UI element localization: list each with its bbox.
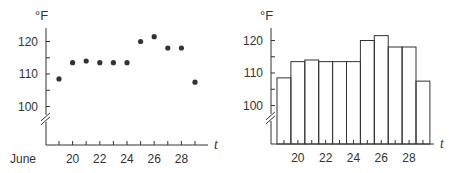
y-tick-label: 120 bbox=[18, 35, 38, 49]
bar bbox=[416, 81, 430, 144]
bar bbox=[277, 78, 291, 144]
data-point bbox=[192, 80, 197, 85]
bar bbox=[402, 47, 416, 144]
histogram-chart: 100110120°Ft2022242628 bbox=[243, 8, 445, 165]
data-point bbox=[84, 58, 89, 63]
x-axis-variable-label: t bbox=[214, 137, 219, 152]
data-point bbox=[124, 60, 129, 65]
y-axis-unit-label: °F bbox=[260, 8, 273, 23]
chart-canvas: 100110120°Ft2022242628June 100110120°Ft2… bbox=[0, 0, 453, 173]
x-tick-label: 20 bbox=[66, 152, 80, 166]
bar bbox=[360, 41, 374, 145]
data-point bbox=[56, 76, 61, 81]
data-point bbox=[152, 34, 157, 39]
x-tick-label: 24 bbox=[347, 151, 361, 165]
bar bbox=[374, 36, 388, 144]
scatter-chart: 100110120°Ft2022242628June bbox=[10, 8, 219, 166]
bar bbox=[388, 47, 402, 144]
month-label: June bbox=[10, 152, 36, 166]
y-tick-label: 110 bbox=[19, 67, 38, 81]
data-point bbox=[70, 60, 75, 65]
y-tick-label: 100 bbox=[18, 100, 38, 114]
data-point bbox=[138, 39, 143, 44]
x-tick-label: 26 bbox=[148, 152, 162, 166]
x-axis-variable-label: t bbox=[440, 136, 445, 151]
data-point bbox=[111, 60, 116, 65]
y-tick-label: 100 bbox=[243, 99, 263, 113]
bar bbox=[319, 62, 333, 144]
data-point bbox=[97, 60, 102, 65]
x-tick-label: 22 bbox=[93, 152, 107, 166]
bar bbox=[291, 62, 305, 144]
x-tick-label: 20 bbox=[291, 151, 305, 165]
bar bbox=[333, 62, 347, 144]
x-tick-label: 26 bbox=[375, 151, 389, 165]
x-tick-label: 28 bbox=[175, 152, 189, 166]
y-tick-label: 110 bbox=[244, 66, 263, 80]
bar bbox=[347, 62, 361, 144]
x-tick-label: 24 bbox=[120, 152, 134, 166]
bar bbox=[305, 60, 319, 144]
data-point bbox=[179, 45, 184, 50]
data-point bbox=[165, 45, 170, 50]
y-axis-unit-label: °F bbox=[35, 8, 48, 23]
x-tick-label: 28 bbox=[402, 151, 416, 165]
x-tick-label: 22 bbox=[319, 151, 333, 165]
y-tick-label: 120 bbox=[243, 34, 263, 48]
